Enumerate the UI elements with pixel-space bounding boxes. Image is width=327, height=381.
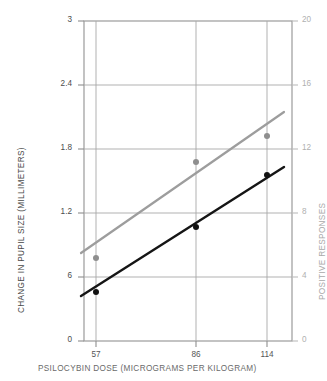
grid-vertical	[96, 21, 267, 341]
left-axis-ticks	[78, 21, 84, 341]
data-point-pupil-size-114	[264, 172, 270, 178]
data-point-positive-responses-114	[264, 133, 270, 139]
data-point-positive-responses-57	[93, 255, 99, 261]
data-point-positive-responses-86	[193, 159, 199, 165]
right-tick-label-4: 4	[302, 271, 307, 280]
right-tick-label-12: 12	[302, 143, 311, 152]
left-tick-label-1-8: 1.8	[46, 143, 72, 152]
right-tick-label-8: 8	[302, 207, 307, 216]
right-tick-label-0: 0	[302, 335, 307, 344]
data-point-pupil-size-57	[93, 289, 99, 295]
x-tick-label-114: 114	[247, 350, 287, 359]
left-tick-label-0: 0	[46, 335, 72, 344]
chart-figure: 3 2.4 1.8 1.2 6 0 20 16 12 8 4 0 57 86 1…	[0, 0, 327, 381]
right-axis-ticks	[292, 21, 298, 341]
y-axis-left-title: CHANGE IN PUPIL SIZE (MILLIMETERS)	[17, 147, 26, 313]
x-tick-label-57: 57	[76, 350, 116, 359]
x-axis-title: PSILOCYBIN DOSE (MICROGRAMS PER KILOGRAM…	[38, 364, 257, 373]
data-point-pupil-size-86	[193, 224, 199, 230]
left-tick-label-2-4: 2.4	[46, 79, 72, 88]
left-tick-label-0-6: 6	[46, 271, 72, 280]
right-tick-label-20: 20	[302, 15, 311, 24]
x-tick-label-86: 86	[176, 350, 216, 359]
left-tick-label-3: 3	[46, 15, 72, 24]
y-axis-right-title: POSITIVE RESPONSES	[318, 203, 327, 300]
x-axis-ticks	[96, 341, 267, 347]
psilocybin-dose-response-chart	[0, 0, 327, 381]
right-tick-label-16: 16	[302, 79, 311, 88]
left-tick-label-1-2: 1.2	[46, 207, 72, 216]
